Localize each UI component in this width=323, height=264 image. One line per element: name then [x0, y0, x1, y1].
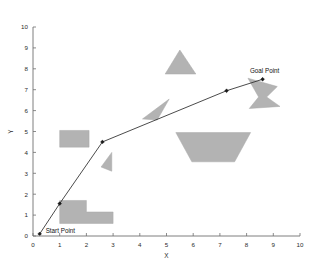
y-tick-label: 5: [25, 128, 29, 135]
path-planning-figure: 012345678910012345678910XY Start PointGo…: [0, 0, 323, 264]
obstacle-sliver: [142, 99, 169, 120]
x-tick-label: 0: [31, 241, 35, 248]
y-tick-label: 4: [25, 149, 29, 156]
y-tick-label: 3: [25, 170, 29, 177]
goal-point-label: Goal Point: [250, 67, 280, 74]
waypoint-marker: [261, 77, 265, 81]
x-tick-label: 5: [165, 241, 169, 248]
x-tick-label: 9: [272, 241, 276, 248]
y-tick-label: 6: [25, 107, 29, 114]
plot-canvas: 012345678910012345678910XY Start PointGo…: [0, 0, 323, 264]
obstacles-group: [60, 50, 280, 223]
y-tick-label: 0: [25, 232, 29, 239]
x-tick-label: 2: [85, 241, 89, 248]
x-tick-label: 7: [218, 241, 222, 248]
x-tick-label: 1: [58, 241, 62, 248]
obstacle-rect-left: [60, 130, 89, 147]
y-tick-label: 10: [21, 23, 28, 30]
x-tick-label: 8: [245, 241, 249, 248]
x-tick-label: 3: [111, 241, 115, 248]
obstacle-l-shape-bottom: [60, 200, 113, 223]
x-tick-label: 6: [191, 241, 195, 248]
x-axis-title: X: [164, 252, 169, 259]
waypoint-marker: [225, 89, 229, 93]
obstacle-triangle-top: [165, 50, 196, 74]
x-tick-label: 10: [297, 241, 304, 248]
obstacle-trapezoid: [176, 133, 251, 162]
x-tick-label: 4: [138, 241, 142, 248]
y-tick-label: 2: [25, 191, 29, 198]
y-tick-label: 8: [25, 65, 29, 72]
y-tick-label: 9: [25, 44, 29, 51]
axes-group: 012345678910012345678910XY: [7, 23, 304, 259]
obstacle-wedge-left-pointing: [101, 152, 112, 171]
y-axis-title: Y: [7, 129, 14, 134]
start-point-label: Start Point: [46, 227, 76, 234]
y-tick-label: 7: [25, 86, 29, 93]
y-tick-label: 1: [25, 211, 29, 218]
